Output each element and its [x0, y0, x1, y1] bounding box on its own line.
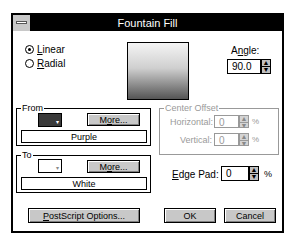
- vertical-label: Vertical:: [180, 135, 212, 145]
- horizontal-spinner: ▲ ▼: [239, 115, 249, 128]
- label-part: M: [99, 115, 107, 125]
- from-more-button[interactable]: More...: [87, 113, 140, 126]
- from-color-swatch[interactable]: ▾: [38, 113, 62, 127]
- label-part: ostScript Options...: [49, 211, 125, 221]
- dropdown-arrow-icon: ▾: [56, 165, 59, 171]
- horizontal-label: Horizontal:: [170, 117, 213, 127]
- angle-input[interactable]: 90.0: [227, 59, 261, 74]
- vertical-unit: %: [252, 135, 259, 144]
- radio-checked-icon: [25, 45, 34, 54]
- postscript-options-button[interactable]: PostScript Options...: [28, 208, 140, 223]
- edge-pad-unit: %: [264, 169, 272, 179]
- system-menu-icon[interactable]: [13, 15, 31, 31]
- fountain-fill-dialog: Fountain Fill Linear Radial Angle: 90.0 …: [11, 13, 284, 233]
- from-color-name: Purple: [21, 130, 147, 143]
- spin-down-icon[interactable]: ▼: [262, 67, 270, 73]
- accel-key: E: [172, 169, 179, 180]
- center-offset-group: Center Offset Horizontal: 0 ▲ ▼ % Vertic…: [159, 108, 279, 155]
- label-part: re...: [112, 162, 128, 172]
- from-group: From ▾ More... Purple: [16, 108, 151, 146]
- label-part: A: [231, 45, 238, 56]
- cancel-button[interactable]: Cancel: [224, 208, 276, 223]
- ok-button[interactable]: OK: [164, 208, 216, 223]
- horizontal-unit: %: [252, 117, 259, 126]
- to-group-label: To: [21, 150, 33, 160]
- label-part: re...: [112, 115, 128, 125]
- to-color-name: White: [21, 177, 147, 190]
- label-rest: adial: [44, 58, 65, 69]
- angle-spinner[interactable]: ▲ ▼: [261, 59, 271, 74]
- vertical-input: 0: [214, 133, 239, 146]
- label-rest: inear: [43, 44, 65, 55]
- title-bar: Fountain Fill: [13, 15, 282, 31]
- label-part: M: [99, 162, 107, 172]
- radio-linear-label: Linear: [37, 44, 65, 55]
- from-group-label: From: [21, 103, 44, 113]
- edge-pad-input[interactable]: 0: [221, 166, 249, 181]
- radio-radial[interactable]: Radial: [25, 58, 65, 69]
- radio-unchecked-icon: [25, 59, 34, 68]
- edge-pad-spinner[interactable]: ▲ ▼: [249, 166, 259, 181]
- center-offset-label: Center Offset: [164, 103, 219, 113]
- label-part: dge Pad:: [179, 169, 219, 180]
- to-group: To ▾ More... White: [16, 155, 151, 193]
- to-more-button[interactable]: More...: [87, 160, 140, 173]
- radio-linear[interactable]: Linear: [25, 44, 65, 55]
- angle-label: Angle:: [231, 45, 259, 56]
- spin-down-icon: ▼: [240, 141, 248, 147]
- spin-down-icon[interactable]: ▼: [250, 174, 258, 180]
- dropdown-arrow-icon: ▾: [56, 119, 59, 125]
- dialog-title: Fountain Fill: [118, 17, 178, 29]
- edge-pad-label: Edge Pad:: [172, 169, 219, 180]
- spin-down-icon: ▼: [240, 123, 248, 129]
- vertical-spinner: ▲ ▼: [239, 133, 249, 146]
- radio-radial-label: Radial: [37, 58, 65, 69]
- to-color-swatch[interactable]: ▾: [38, 159, 62, 173]
- horizontal-input: 0: [214, 115, 239, 128]
- gradient-preview: [127, 42, 189, 100]
- label-part: gle:: [243, 45, 259, 56]
